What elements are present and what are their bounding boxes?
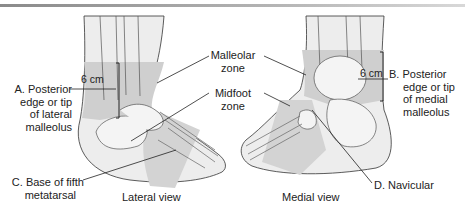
label-b-medial-malleolus: B. Posterior edge or tip of medial malle…: [389, 68, 455, 118]
medial-view-illustration: [241, 16, 391, 183]
label-a-line-1: A. Posterior: [4, 83, 72, 96]
label-c-line-1: C. Base of fifth: [6, 176, 84, 189]
label-b-line-2: edge or tip: [389, 81, 455, 94]
lateral-view-illustration: [70, 16, 225, 188]
midfoot-zone-line-1: Midfoot: [211, 87, 255, 100]
lateral-view-caption: Lateral view: [122, 191, 181, 204]
label-c-line-2: metatarsal: [6, 189, 84, 202]
measurement-left-6cm: 6 cm: [81, 73, 104, 86]
label-b-line-4: malleolus: [389, 106, 455, 119]
malleolar-zone-line-2: zone: [208, 62, 258, 75]
label-a-line-4: malleolus: [4, 121, 72, 134]
midfoot-zone-line-2: zone: [211, 100, 255, 113]
label-a-lateral-malleolus: A. Posterior edge or tip of lateral mall…: [4, 83, 72, 133]
measurement-right-6cm: 6 cm: [360, 67, 383, 80]
midfoot-zone-label: Midfoot zone: [211, 87, 255, 112]
label-a-line-2: edge or tip: [4, 96, 72, 109]
label-b-line-3: of medial: [389, 93, 455, 106]
label-d-navicular: D. Navicular: [374, 179, 434, 192]
label-b-line-1: B. Posterior: [389, 68, 455, 81]
medial-view-caption: Medial view: [282, 191, 339, 204]
malleolar-zone-line-1: Malleolar: [208, 49, 258, 62]
label-a-line-3: of lateral: [4, 108, 72, 121]
label-c-fifth-metatarsal: C. Base of fifth metatarsal: [6, 176, 84, 201]
malleolar-zone-label: Malleolar zone: [208, 49, 258, 74]
